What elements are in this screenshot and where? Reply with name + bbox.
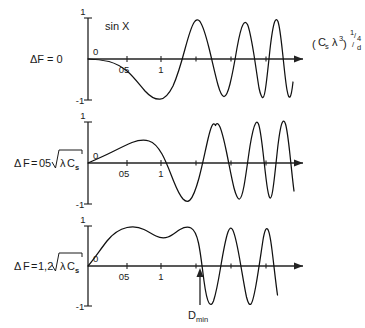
x-axis-label-divisor-d: d xyxy=(357,43,361,52)
panel-2-label-c: C xyxy=(67,157,75,169)
panel-2-label-value: 05 xyxy=(39,157,51,169)
panel-3-label-lambda: λ xyxy=(60,260,66,272)
panel-3-label-c-subscript: s xyxy=(75,266,79,275)
panel-2-ytick-label-top: 1 xyxy=(80,110,85,121)
panel-3-ytick-label-top: 1 xyxy=(80,214,85,225)
panel-1-ytick-label-zero: 0 xyxy=(93,46,98,57)
panel-1-xtick-label-one: 1 xyxy=(158,64,163,75)
panel-1-xtick-label-half: 05 xyxy=(119,64,130,75)
panel-3-label-value: 1,2 xyxy=(38,260,53,272)
panel-2-label-equals: = xyxy=(31,157,37,169)
figure-background xyxy=(0,0,365,328)
x-axis-label-cs-subscript: s xyxy=(325,42,329,51)
panel-2-label-delta: Δ xyxy=(14,157,22,169)
panel-3-label-equals: = xyxy=(31,260,37,272)
x-axis-label-lambda: λ xyxy=(332,36,338,48)
x-axis-label-open-paren: ( xyxy=(312,38,316,50)
panel-1-ytick-label-top: 1 xyxy=(80,6,85,17)
panel-3-label-delta: Δ xyxy=(14,260,22,272)
panel-3-xtick-label-one: 1 xyxy=(158,271,163,282)
x-axis-label-close-paren: ) xyxy=(343,38,347,50)
panel-3-xtick-label-half: 05 xyxy=(119,271,130,282)
panel-1-ytick-label-bottom: -1 xyxy=(76,95,84,106)
dmin-label-base: D xyxy=(188,309,196,321)
x-axis-label-power-denominator: 4 xyxy=(357,34,361,43)
y-axis-label-sinx: sin X xyxy=(105,20,130,32)
panel-1-defocus-label: ΔF = 0 xyxy=(30,53,63,65)
ctf-figure-svg: 1 -1 0 05 1 sin X ΔF = 0 ( C s λ 3 ) 1 /… xyxy=(0,0,365,328)
panel-3-ytick-label-bottom: -1 xyxy=(76,301,84,312)
figure-root: 1 -1 0 05 1 sin X ΔF = 0 ( C s λ 3 ) 1 /… xyxy=(0,0,365,328)
panel-2-ytick-label-bottom: -1 xyxy=(76,199,84,210)
panel-2-xtick-label-one: 1 xyxy=(158,168,163,179)
panel-3-ytick-label-zero: 0 xyxy=(93,253,98,264)
dmin-label-subscript: min xyxy=(196,315,208,324)
panel-3-label-c: C xyxy=(67,260,75,272)
panel-2-label-c-subscript: s xyxy=(75,163,79,172)
panel-2-label-f: F xyxy=(23,157,30,169)
panel-2-ytick-label-zero: 0 xyxy=(93,150,98,161)
panel-2-xtick-label-half: 05 xyxy=(119,168,130,179)
panel-2-label-lambda: λ xyxy=(60,157,66,169)
panel-3-label-f: F xyxy=(23,260,30,272)
